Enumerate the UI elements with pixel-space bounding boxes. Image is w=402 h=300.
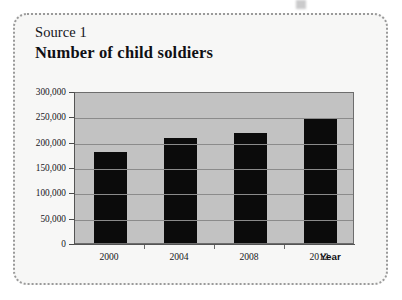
y-axis-tick-mark xyxy=(69,143,74,144)
y-axis-tick-label: 300,000 xyxy=(36,87,66,97)
gridline xyxy=(75,220,353,221)
y-axis-tick-label: 100,000 xyxy=(36,188,66,198)
x-axis-tick-label: 2004 xyxy=(169,251,188,262)
scan-speck-artifact xyxy=(296,0,306,9)
x-axis-tick-label: 2012 xyxy=(309,251,328,262)
gridline xyxy=(75,169,353,170)
gridline xyxy=(75,118,353,119)
bar xyxy=(164,138,197,243)
y-axis-tick-mark xyxy=(69,244,74,245)
y-axis-tick-mark xyxy=(69,92,74,93)
y-axis-line xyxy=(74,92,75,245)
bar xyxy=(94,152,127,243)
y-axis-tick-mark xyxy=(69,193,74,194)
x-axis-tick-mark xyxy=(144,245,145,249)
y-axis-tick-mark xyxy=(69,117,74,118)
y-axis-tick-mark xyxy=(69,219,74,220)
x-axis-tick-label: 2008 xyxy=(239,251,258,262)
x-axis-tick-mark xyxy=(284,245,285,249)
y-axis-tick-label: 0 xyxy=(61,239,66,249)
gridline xyxy=(75,144,353,145)
bar-chart: Year 050,000100,000150,000200,000250,000… xyxy=(15,15,386,283)
source-card: Source 1 Number of child soldiers Year 0… xyxy=(13,13,388,285)
gridline xyxy=(75,194,353,195)
bar xyxy=(234,133,267,243)
bar xyxy=(304,118,337,243)
y-axis-tick-label: 50,000 xyxy=(40,214,66,224)
plot-area xyxy=(74,92,354,244)
y-axis-tick-label: 200,000 xyxy=(36,138,66,148)
y-axis-tick-mark xyxy=(69,168,74,169)
y-axis-tick-label: 250,000 xyxy=(36,112,66,122)
x-axis-tick-mark xyxy=(214,245,215,249)
x-axis-tick-label: 2000 xyxy=(99,251,118,262)
y-axis-tick-label: 150,000 xyxy=(36,163,66,173)
